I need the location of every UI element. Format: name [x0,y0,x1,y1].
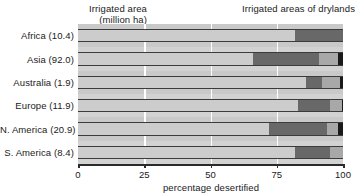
bar-segment [78,30,295,42]
category-label: Europe (11.9) [0,100,74,111]
bar-segment [338,123,343,135]
bar-europe [78,99,343,113]
category-label: Africa (10.4) [0,30,74,41]
x-tick-50 [211,164,213,168]
x-tick-label-25: 25 [139,169,150,180]
bar-segment [327,123,338,135]
bar-segment [78,53,253,65]
x-tick-label-100: 100 [335,169,351,180]
plot-area [78,24,343,164]
bar-segment [319,53,338,65]
category-label: Australia (1.9) [0,77,74,88]
bar-segment [78,147,295,159]
x-tick-label-0: 0 [75,169,80,180]
bar-africa [78,29,343,43]
bar-segment [306,77,322,89]
bar-segment [78,77,306,89]
bars-layer [78,24,343,164]
chart-title: Irrigated areas of drylands [242,3,355,14]
bar-segment [298,100,330,112]
x-axis-title: percentage desertified [78,182,344,193]
bar-s-america [78,146,343,160]
category-label: Asia (92.0) [0,54,74,65]
category-label: N. America (20.9) [0,124,74,135]
bar-segment [295,30,343,42]
x-tick-100 [343,164,345,168]
x-tick-label-75: 75 [271,169,282,180]
bar-segment [330,147,343,159]
bar-segment [269,123,327,135]
x-tick-75 [277,164,279,168]
bar-segment [78,123,269,135]
y-axis-header-line1: Irrigated area [0,3,150,14]
bar-segment [295,147,329,159]
x-tick-0 [78,164,80,168]
bar-segment [78,100,298,112]
x-tick-25 [144,164,146,168]
category-label: S. America (8.4) [0,147,74,158]
bar-segment [338,53,343,65]
chart-container: Irrigated area (million ha) Irrigated ar… [0,0,359,194]
bar-segment [340,77,343,89]
bar-segment [330,100,342,112]
bar-asia [78,52,343,66]
y-axis-header: Irrigated area (million ha) [0,3,150,25]
bar-segment [322,77,341,89]
x-tick-label-50: 50 [205,169,216,180]
bar-australia [78,76,343,90]
bar-segment [253,53,319,65]
bar-n-america [78,122,343,136]
bar-segment [342,100,343,112]
